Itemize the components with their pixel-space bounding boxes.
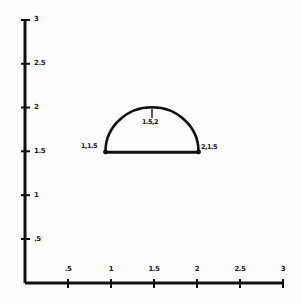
left-endpoint-label: 1,1.5 (81, 143, 97, 150)
x-tick-label-3: 3 (273, 266, 293, 273)
y-tick-label-2: 2 (34, 104, 38, 111)
x-tick-label-2: 2 (187, 266, 207, 273)
y-tick-label-1-5: 1.5 (34, 148, 45, 155)
right-endpoint-label: 2,1.5 (201, 144, 217, 151)
x-tick-label-1-5: 1.5 (144, 266, 164, 273)
x-tick-label-1: 1 (101, 266, 121, 273)
x-tick-label-0-5: .5 (58, 266, 78, 273)
plot-canvas (0, 0, 302, 304)
y-tick-label-3: 3 (34, 16, 38, 23)
y-tick-label-1: 1 (34, 192, 38, 199)
y-tick-label-2-5: 2.5 (34, 60, 45, 67)
y-tick-label-0-5: .5 (34, 236, 41, 243)
left-endpoint-marker (103, 150, 108, 155)
chart-figure: 3 2.5 2 1.5 1 .5 .5 1 1.5 2 2.5 3 1,1.5 … (0, 0, 302, 304)
apex-label: 1.5,2 (142, 119, 158, 126)
x-tick-label-2-5: 2.5 (230, 266, 250, 273)
